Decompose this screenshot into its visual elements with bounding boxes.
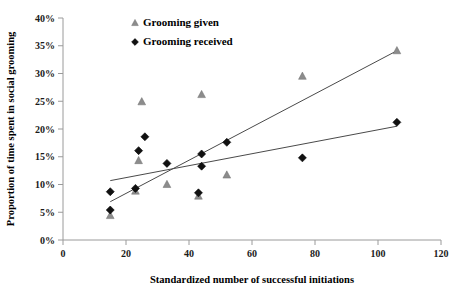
x-tick-label: 0 xyxy=(61,248,66,259)
y-tick-label: 0% xyxy=(40,235,55,246)
x-axis-tick-group: 020406080100120 xyxy=(61,240,449,259)
data-point-grooming-received xyxy=(106,188,114,196)
legend-marker-diamond xyxy=(132,39,139,46)
data-point-grooming-received xyxy=(223,138,231,146)
y-tick-label: 40% xyxy=(35,13,55,24)
x-tick-label: 60 xyxy=(247,248,257,259)
data-point-grooming-received xyxy=(163,159,171,167)
legend-label-1: Grooming received xyxy=(143,35,233,47)
y-tick-label: 35% xyxy=(35,40,55,51)
data-point-grooming-given xyxy=(223,171,231,178)
chart-canvas: 0%5%10%15%20%25%30%35%40% 02040608010012… xyxy=(0,0,458,292)
data-point-grooming-given xyxy=(135,156,143,163)
y-axis-title: Proportion of time spent in social groom… xyxy=(5,31,16,226)
legend-label-0: Grooming given xyxy=(143,16,219,28)
data-point-grooming-given xyxy=(299,72,307,79)
x-tick-label: 100 xyxy=(371,248,386,259)
chart-legend: Grooming givenGrooming received xyxy=(132,16,233,47)
data-point-grooming-received xyxy=(131,184,139,192)
x-tick-label: 40 xyxy=(184,248,194,259)
y-tick-label: 15% xyxy=(35,151,55,162)
y-tick-label: 30% xyxy=(35,68,55,79)
data-point-grooming-given xyxy=(393,47,401,54)
x-axis-title: Standardized number of successful initia… xyxy=(150,274,354,285)
data-point-grooming-received xyxy=(135,147,143,155)
trend-line-group xyxy=(110,51,397,202)
trend-line-grooming-given xyxy=(110,51,397,202)
legend-marker-triangle xyxy=(132,19,139,25)
y-tick-label: 20% xyxy=(35,124,55,135)
trend-line-grooming-received xyxy=(110,126,397,180)
data-point-grooming-received xyxy=(106,206,114,214)
data-point-grooming-received xyxy=(298,154,306,162)
y-tick-label: 25% xyxy=(35,96,55,107)
y-tick-label: 5% xyxy=(40,207,55,218)
x-tick-label: 20 xyxy=(121,248,131,259)
data-point-grooming-given xyxy=(138,98,146,105)
data-point-grooming-received xyxy=(198,150,206,158)
data-point-grooming-received xyxy=(393,118,401,126)
data-point-grooming-given xyxy=(198,90,206,97)
scatter-chart: 0%5%10%15%20%25%30%35%40% 02040608010012… xyxy=(0,0,458,292)
x-tick-label: 80 xyxy=(310,248,320,259)
y-axis-tick-group: 0%5%10%15%20%25%30%35%40% xyxy=(35,13,63,246)
data-point-grooming-given xyxy=(163,180,171,187)
y-tick-label: 10% xyxy=(35,179,55,190)
x-tick-label: 120 xyxy=(434,248,449,259)
data-point-grooming-received xyxy=(194,189,202,197)
data-point-grooming-received xyxy=(141,133,149,141)
